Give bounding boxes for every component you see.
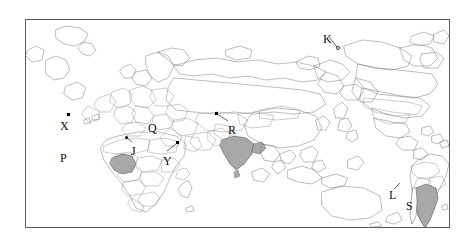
map-label-y: Y xyxy=(163,155,172,167)
map-label-x: X xyxy=(60,120,69,132)
map-label-s: S xyxy=(406,200,413,212)
map-label-j: J xyxy=(131,145,136,157)
map-label-q: Q xyxy=(148,122,157,134)
map-frame xyxy=(25,19,450,228)
marker-r xyxy=(215,112,218,115)
map-label-l: L xyxy=(389,189,396,201)
world-map-graphic xyxy=(26,20,449,227)
map-label-p: P xyxy=(60,152,67,164)
map-label-k: K xyxy=(323,33,332,45)
map-figure: X P J Q Y R K L S xyxy=(0,0,471,250)
marker-x xyxy=(67,113,70,116)
marker-y xyxy=(176,141,179,144)
map-label-r: R xyxy=(228,124,236,136)
marker-k xyxy=(336,46,340,50)
marker-j xyxy=(125,136,128,139)
